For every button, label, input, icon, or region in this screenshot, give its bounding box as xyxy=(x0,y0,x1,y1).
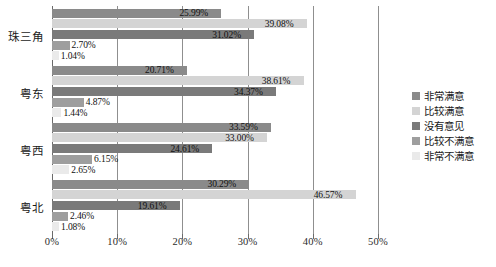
bar-value-label: 2.70% xyxy=(72,40,96,50)
category-label-text: 珠三角 xyxy=(8,28,44,44)
bar xyxy=(52,212,68,221)
legend-swatch-icon xyxy=(412,152,420,160)
legend-swatch-icon xyxy=(412,92,420,100)
gridline xyxy=(248,6,249,234)
bar-value-label: 33.00% xyxy=(225,133,254,143)
bar-chart: 珠三角粤东粤西粤北 25.99%39.08%31.02%2.70%1.04%20… xyxy=(0,0,496,267)
bar xyxy=(52,155,92,164)
category-label-4: 粤北 xyxy=(0,199,52,213)
legend-item-4[interactable]: 比较不满意 xyxy=(412,133,474,148)
bar-value-label: 19.61% xyxy=(138,201,167,211)
bar-value-label: 25.99% xyxy=(179,8,208,18)
legend-swatch-icon xyxy=(412,107,420,115)
legend-label: 比较不满意 xyxy=(424,133,474,148)
legend-label: 没有意见 xyxy=(424,118,464,133)
bar-value-label: 4.87% xyxy=(86,97,110,107)
bar xyxy=(52,190,356,199)
bar-value-label: 46.57% xyxy=(314,190,343,200)
category-label-text: 粤北 xyxy=(20,199,44,215)
bar-value-label: 1.08% xyxy=(61,222,85,232)
bar-value-label: 31.02% xyxy=(212,30,241,40)
axis-tick-label: 10% xyxy=(107,236,127,247)
legend-item-2[interactable]: 比较满意 xyxy=(412,103,474,118)
legend-item-5[interactable]: 非常不满意 xyxy=(412,148,474,163)
gridline xyxy=(182,6,183,234)
axis-tick-label: 20% xyxy=(172,236,192,247)
bar xyxy=(52,165,69,174)
legend-swatch-icon xyxy=(412,137,420,145)
bar xyxy=(52,51,59,60)
category-label-text: 粤西 xyxy=(20,142,44,158)
axis-tick-label: 0% xyxy=(45,236,59,247)
legend-label: 非常满意 xyxy=(424,88,464,103)
bar-value-label: 34.37% xyxy=(234,87,263,97)
bar-value-label: 24.61% xyxy=(170,144,199,154)
legend-swatch-icon xyxy=(412,122,420,130)
category-label-2: 粤东 xyxy=(0,85,52,99)
legend-label: 非常不满意 xyxy=(424,148,474,163)
bar-value-label: 20.71% xyxy=(145,65,174,75)
legend-item-3[interactable]: 没有意见 xyxy=(412,118,474,133)
axis-tick-label: 40% xyxy=(303,236,323,247)
category-label-1: 珠三角 xyxy=(0,28,52,42)
bar-value-label: 6.15% xyxy=(94,154,118,164)
bar xyxy=(52,41,70,50)
bar-value-label: 2.46% xyxy=(70,211,94,221)
bar xyxy=(52,108,61,117)
legend: 非常满意比较满意没有意见比较不满意非常不满意 xyxy=(412,88,474,163)
legend-item-1[interactable]: 非常满意 xyxy=(412,88,474,103)
gridline xyxy=(378,6,379,234)
bar xyxy=(52,222,59,231)
category-label-text: 粤东 xyxy=(20,85,44,101)
bar-value-label: 38.61% xyxy=(262,76,291,86)
bar-value-label: 1.44% xyxy=(63,108,87,118)
axis-tick-label: 50% xyxy=(368,236,388,247)
bar-value-label: 30.29% xyxy=(207,179,236,189)
legend-label: 比较满意 xyxy=(424,103,464,118)
bar-value-label: 2.65% xyxy=(71,165,95,175)
bar-value-label: 1.04% xyxy=(61,51,85,61)
category-label-3: 粤西 xyxy=(0,142,52,156)
axis-tick-label: 30% xyxy=(238,236,258,247)
bar xyxy=(52,98,84,107)
bar-value-label: 39.08% xyxy=(265,19,294,29)
gridline xyxy=(117,6,118,234)
bar-value-label: 33.59% xyxy=(229,122,258,132)
